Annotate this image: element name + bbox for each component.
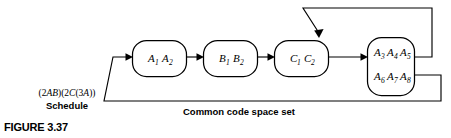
arrowhead-into-node-c (314, 29, 323, 38)
node-a-sub-2: 2 (169, 58, 173, 67)
node-b-sub-2: 2 (240, 58, 244, 67)
node-a-label-1: A (147, 52, 155, 64)
node-b-label-2: B (233, 52, 240, 64)
schedule-expression-text: (2AB)(2C(3A)) (38, 88, 95, 98)
node-d-label-5: A (386, 70, 394, 82)
node-c-shape (275, 41, 329, 77)
node-a-shape (133, 41, 187, 77)
node-c-sub-1: 1 (297, 58, 301, 67)
schedule-expression: (2AB)(2C(3A)) (24, 88, 110, 98)
conn-a-to-b (187, 53, 204, 61)
node-d-label-1: A (373, 46, 381, 58)
node-d-sub-4: 6 (381, 76, 385, 85)
node-d-sub-2: 4 (394, 52, 398, 61)
node-d-label-4: A (373, 70, 381, 82)
figure-3-37: A 1 A 2 B 1 B 2 C 1 C 2 (0, 0, 451, 138)
node-d-sub-1: 3 (380, 52, 385, 61)
node-c-sub-2: 2 (311, 58, 315, 67)
conn-b-to-c (258, 53, 275, 61)
node-d-label-3: A (399, 46, 407, 58)
node-a-label-2: A (161, 52, 169, 64)
node-c[interactable]: C 1 C 2 (275, 41, 329, 77)
common-code-space-set-caption: Common code space set (183, 106, 295, 117)
node-d-sub-6: 8 (407, 76, 411, 85)
node-d-label-2: A (386, 46, 394, 58)
node-a-sub-1: 1 (155, 58, 159, 67)
figure-number: FIGURE 3.37 (4, 121, 68, 133)
block-flow-diagram: A 1 A 2 B 1 B 2 C 1 C 2 (0, 0, 451, 138)
schedule-label: Schedule (24, 100, 110, 111)
node-b-label-1: B (219, 52, 226, 64)
node-a[interactable]: A 1 A 2 (133, 41, 187, 77)
node-d-sub-5: 7 (394, 76, 398, 85)
node-b-sub-1: 1 (226, 58, 230, 67)
node-b-shape (204, 41, 258, 77)
node-d[interactable]: A 3 A 4 A 5 A 6 A 7 A 8 (368, 38, 415, 96)
node-b[interactable]: B 1 B 2 (204, 41, 258, 77)
node-d-sub-3: 5 (407, 52, 411, 61)
node-d-label-6: A (399, 70, 407, 82)
conn-c-to-d (329, 53, 368, 61)
